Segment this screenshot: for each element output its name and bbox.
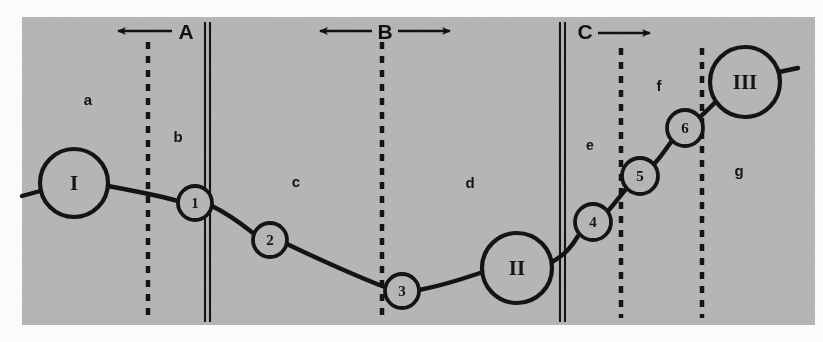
- region-label-a: a: [84, 91, 93, 108]
- region-label-d: d: [465, 174, 474, 191]
- node-5[interactable]: 5: [622, 158, 658, 194]
- node-I-label: I: [70, 171, 78, 195]
- node-3-label: 3: [398, 283, 406, 299]
- region-label-g: g: [734, 162, 743, 179]
- marker-c-label: C: [577, 20, 592, 43]
- figure-root: A B C I 1 2 3: [0, 0, 823, 342]
- marker-a-label: A: [178, 20, 193, 43]
- node-6-label: 6: [681, 120, 689, 136]
- node-II-label: II: [509, 256, 525, 280]
- node-III-label: III: [733, 70, 758, 94]
- node-6[interactable]: 6: [667, 110, 703, 146]
- node-2-label: 2: [266, 232, 274, 248]
- node-II[interactable]: II: [482, 233, 552, 303]
- node-1-label: 1: [191, 195, 199, 211]
- diagram-canvas: A B C I 1 2 3: [0, 0, 823, 342]
- node-3[interactable]: 3: [385, 274, 419, 308]
- diagram-panel-grain: [22, 17, 815, 325]
- region-label-e: e: [586, 137, 594, 153]
- marker-b-label: B: [377, 20, 392, 43]
- node-III[interactable]: III: [710, 47, 780, 117]
- region-label-c: c: [292, 173, 300, 190]
- node-4-label: 4: [589, 214, 597, 230]
- region-label-b: b: [173, 128, 182, 145]
- node-2[interactable]: 2: [253, 223, 287, 257]
- node-1[interactable]: 1: [178, 186, 212, 220]
- node-I[interactable]: I: [40, 149, 108, 217]
- node-5-label: 5: [636, 168, 644, 184]
- node-4[interactable]: 4: [575, 204, 611, 240]
